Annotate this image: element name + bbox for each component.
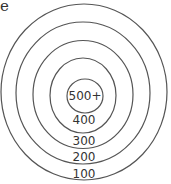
label-200: 200: [73, 150, 96, 164]
label-400: 400: [73, 113, 96, 127]
label-100: 100: [73, 167, 96, 181]
label-500-plus: 500+: [69, 89, 102, 103]
target-diagram: 500+ 400 300 200 100: [0, 0, 171, 184]
label-300: 300: [73, 134, 96, 148]
